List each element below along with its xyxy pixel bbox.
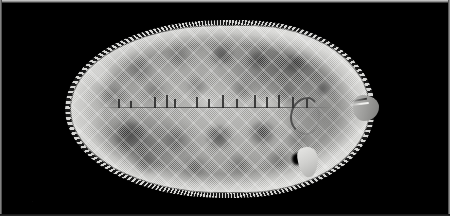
fish-specimen (70, 25, 370, 193)
lateral-line-dash (196, 97, 198, 108)
opercle (290, 97, 320, 135)
lateral-line-dash (266, 97, 268, 108)
lateral-line-dash (208, 99, 210, 108)
eye (316, 83, 331, 96)
lateral-line-dash (118, 99, 120, 108)
photograph-field: · (2, 3, 448, 214)
lateral-line-dash (154, 97, 156, 108)
lateral-line-dash (236, 99, 238, 108)
lateral-line-dash (222, 95, 224, 108)
lateral-line-dash (166, 95, 168, 108)
plate-border-bottom (0, 214, 450, 216)
lateral-line-dash (254, 95, 256, 108)
figure-plate: · (0, 0, 450, 216)
lateral-line-dash (278, 95, 280, 108)
lateral-line-dash (174, 99, 176, 108)
lateral-line-dash (130, 101, 132, 108)
specimen-mark: · (32, 199, 34, 204)
